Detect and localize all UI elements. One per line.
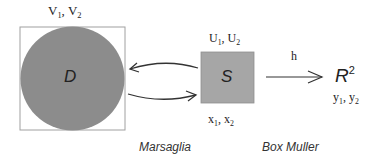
arrow-to-disk: [130, 63, 198, 69]
caption-box-muller: Box Muller: [262, 140, 319, 154]
square-label: S: [221, 67, 232, 87]
diagram-graphics: [0, 0, 380, 163]
plane-variables: y1, y2: [333, 90, 359, 106]
diagram-canvas: V1, V2 D U1, U2 S x1, x2 h R2 y1, y2 Mar…: [0, 0, 380, 163]
caption-marsaglia: Marsaglia: [139, 140, 191, 154]
square-bottom-variables: x1, x2: [208, 112, 234, 128]
arrow-to-square: [128, 94, 196, 99]
disk-variables: V1, V2: [48, 3, 81, 20]
plane-label: R2: [335, 64, 355, 87]
map-label-h: h: [291, 49, 297, 64]
square-top-variables: U1, U2: [209, 31, 240, 47]
disk-label: D: [64, 67, 76, 87]
